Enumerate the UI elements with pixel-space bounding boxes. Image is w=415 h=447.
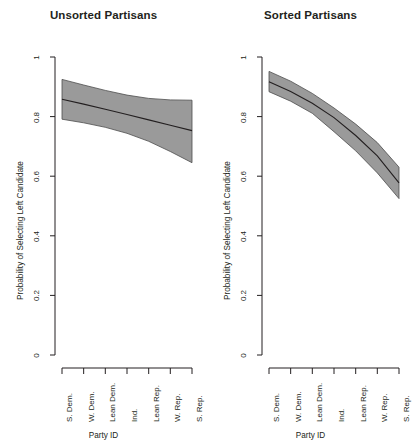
figure-two-panel-partisan-sorting: Unsorted Partisans 1 bbox=[0, 0, 415, 447]
x-tick-label: W. Rep. bbox=[380, 394, 389, 422]
x-axis-title: Party ID bbox=[0, 431, 207, 440]
y-tick-label: 0.6 bbox=[32, 166, 41, 188]
panel-unsorted-partisans: Unsorted Partisans 1 bbox=[0, 0, 207, 447]
x-tick-label: S. Dem. bbox=[65, 393, 74, 422]
x-tick-label: S. Dem. bbox=[272, 393, 281, 422]
y-tick-label: 0.2 bbox=[32, 285, 41, 307]
confidence-band bbox=[62, 79, 192, 162]
y-tick-label: 0.8 bbox=[239, 107, 248, 129]
x-tick-label: S. Rep. bbox=[195, 395, 204, 422]
y-axis-title: Probability of Selecting Left Candidate bbox=[16, 161, 25, 300]
y-axis-title: Probability of Selecting Left Candidate bbox=[223, 161, 232, 300]
x-tick-label: W. Dem. bbox=[294, 391, 303, 422]
x-tick-label: Lean Dem. bbox=[315, 383, 324, 422]
y-tick-label: 1 bbox=[32, 47, 41, 69]
x-tick-label: Ind. bbox=[337, 409, 346, 422]
y-tick-label: 0 bbox=[32, 345, 41, 367]
panel-sorted-partisans: Sorted Partisans 1 0.8 0.6 0.4 0.2 0 bbox=[207, 0, 414, 447]
y-tick-label: 0.8 bbox=[32, 107, 41, 129]
y-tick-label: 0.6 bbox=[239, 166, 248, 188]
y-tick-label: 1 bbox=[239, 47, 248, 69]
x-axis-title: Party ID bbox=[207, 431, 414, 440]
y-tick-label: 0.2 bbox=[239, 285, 248, 307]
y-tick-label: 0.4 bbox=[239, 226, 248, 248]
x-tick-label: Lean Rep. bbox=[359, 385, 368, 422]
x-tick-label: Ind. bbox=[130, 409, 139, 422]
x-tick-label: Lean Rep. bbox=[152, 385, 161, 422]
x-tick-label: Lean Dem. bbox=[108, 383, 117, 422]
y-tick-label: 0.4 bbox=[32, 226, 41, 248]
x-tick-label: W. Rep. bbox=[173, 394, 182, 422]
y-tick-label: 0 bbox=[239, 345, 248, 367]
x-tick-label: W. Dem. bbox=[87, 391, 96, 422]
x-tick-label: S. Rep. bbox=[402, 395, 411, 422]
